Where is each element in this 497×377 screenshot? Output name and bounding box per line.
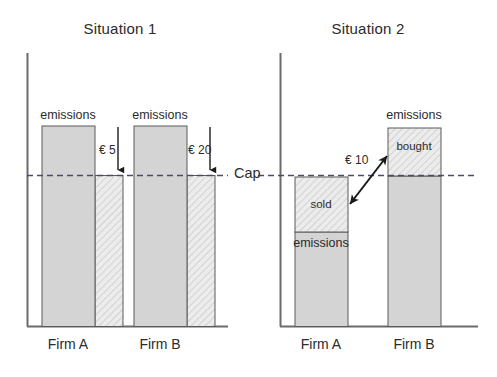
situation-2-firm-b-category-label: Firm B <box>364 336 464 352</box>
situation-1-firm-b-emissions-label: emissions <box>110 108 210 122</box>
situation-1-firm-b-category-label: Firm B <box>110 336 210 352</box>
diagram-canvas <box>0 0 497 377</box>
situation-1-firm-a-price-label: € 5 <box>99 143 116 157</box>
situation-1-firm-b-price-label: € 20 <box>188 143 211 157</box>
panel-title-situation-1: Situation 1 <box>40 20 200 37</box>
situation-1-firm-a-emissions-label: emissions <box>18 108 118 122</box>
situation-2-firm-a-category-label: Firm A <box>271 336 371 352</box>
situation-2-firm-a-sold-label: sold <box>271 198 371 210</box>
panel-title-situation-2: Situation 2 <box>288 20 448 37</box>
situation-2-firm-a-emissions-label: emissions <box>271 236 371 250</box>
situation-2-firm-b-bar <box>388 128 441 327</box>
cap-label: Cap <box>234 165 261 181</box>
situation-2-firm-b-emissions-label: emissions <box>364 108 464 122</box>
situation-1-firm-a-category-label: Firm A <box>18 336 118 352</box>
emissions-trading-diagram: Situation 1 Situation 2 Cap emissions € … <box>0 0 497 377</box>
situation-2-trade-price-label: € 10 <box>345 153 368 167</box>
situation-2-firm-b-bought-label: bought <box>364 140 464 152</box>
